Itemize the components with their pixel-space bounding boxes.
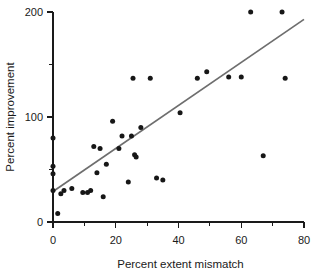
data-point-34 — [261, 153, 266, 158]
plot-canvas: 0204060800100200Percent extent mismatchP… — [0, 0, 320, 273]
regression-line — [53, 19, 304, 191]
data-point-24 — [138, 125, 143, 130]
data-point-19 — [126, 180, 131, 185]
data-point-32 — [239, 75, 244, 80]
data-point-4 — [55, 211, 60, 216]
data-point-25 — [148, 76, 153, 81]
data-point-14 — [101, 194, 106, 199]
data-point-30 — [204, 69, 209, 74]
x-tick-label-60: 60 — [235, 234, 247, 246]
data-point-15 — [104, 162, 109, 167]
data-point-18 — [120, 133, 125, 138]
data-point-21 — [131, 76, 136, 81]
scatter-plot-figure: 0204060800100200Percent extent mismatchP… — [0, 0, 320, 273]
data-point-28 — [178, 110, 183, 115]
x-tick-label-80: 80 — [298, 234, 310, 246]
x-tick-label-0: 0 — [50, 234, 56, 246]
data-point-1 — [51, 164, 56, 169]
data-point-27 — [160, 178, 165, 183]
data-point-26 — [154, 175, 159, 180]
x-tick-label-40: 40 — [172, 234, 184, 246]
data-point-20 — [129, 133, 134, 138]
data-point-7 — [69, 186, 74, 191]
data-point-2 — [51, 171, 56, 176]
data-point-3 — [51, 188, 56, 193]
data-point-31 — [226, 75, 231, 80]
data-point-17 — [116, 146, 121, 151]
y-tick-label-200: 200 — [25, 6, 43, 18]
data-point-16 — [110, 119, 115, 124]
data-point-8 — [80, 190, 85, 195]
y-axis-title: Percent improvement — [4, 62, 16, 172]
y-tick-label-100: 100 — [25, 111, 43, 123]
data-point-35 — [280, 10, 285, 15]
data-point-36 — [283, 76, 288, 81]
data-point-10 — [88, 188, 93, 193]
y-tick-label-0: 0 — [37, 216, 43, 228]
data-point-11 — [91, 144, 96, 149]
x-axis-title: Percent extent mismatch — [117, 258, 244, 270]
data-point-0 — [51, 136, 56, 141]
data-point-13 — [98, 146, 103, 151]
data-point-12 — [94, 170, 99, 175]
data-point-6 — [61, 188, 66, 193]
x-tick-label-20: 20 — [110, 234, 122, 246]
data-point-29 — [195, 76, 200, 81]
data-point-23 — [134, 154, 139, 159]
data-point-33 — [248, 10, 253, 15]
